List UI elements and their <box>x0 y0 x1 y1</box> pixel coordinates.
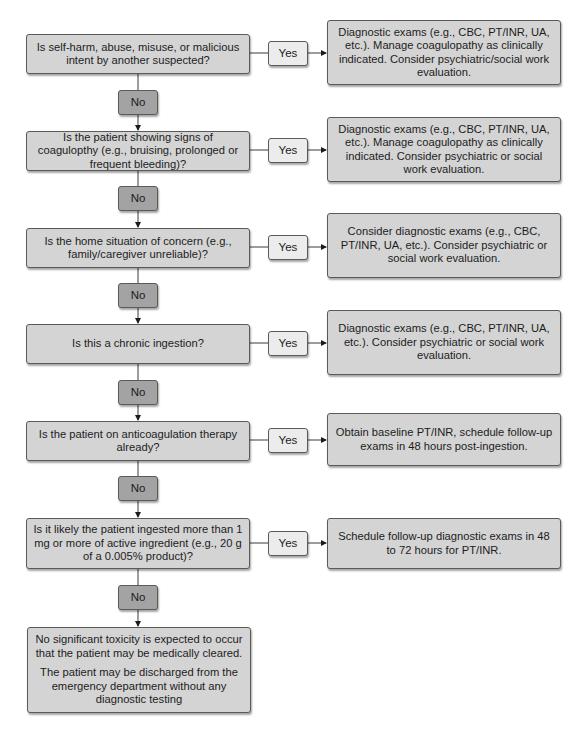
no-label-4: No <box>118 380 158 405</box>
yes-label-3: Yes <box>268 235 308 260</box>
final-outcome-line2: The patient may be discharged from the e… <box>34 666 244 707</box>
action-coagulopathy: Diagnostic exams (e.g., CBC, PT/INR, UA,… <box>327 117 561 182</box>
no-label-3: No <box>118 283 158 308</box>
question-coagulopathy: Is the patient showing signs of coagulop… <box>26 131 250 171</box>
no-label-6: No <box>118 585 158 610</box>
action-anticoagulation: Obtain baseline PT/INR, schedule follow-… <box>327 413 561 466</box>
action-chronic-ingestion: Diagnostic exams (e.g., CBC, PT/INR, UA,… <box>327 310 561 375</box>
action-ingested-amount: Schedule follow-up diagnostic exams in 4… <box>327 518 561 569</box>
question-home-situation: Is the home situation of concern (e.g., … <box>26 228 250 268</box>
action-home-situation: Consider diagnostic exams (e.g., CBC, PT… <box>327 213 561 278</box>
question-self-harm: Is self-harm, abuse, misuse, or maliciou… <box>26 34 250 74</box>
final-outcome-box: No significant toxicity is expected to o… <box>27 627 251 713</box>
action-self-harm: Diagnostic exams (e.g., CBC, PT/INR, UA,… <box>327 20 561 85</box>
final-outcome-line1: No significant toxicity is expected to o… <box>34 633 244 660</box>
no-label-5: No <box>118 476 158 501</box>
question-ingested-amount: Is it likely the patient ingested more t… <box>26 518 250 569</box>
yes-label-1: Yes <box>268 41 308 66</box>
yes-label-2: Yes <box>268 138 308 163</box>
question-anticoagulation: Is the patient on anticoagulation therap… <box>26 421 250 461</box>
yes-label-4: Yes <box>268 331 308 356</box>
question-chronic-ingestion: Is this a chronic ingestion? <box>26 324 250 364</box>
no-label-2: No <box>118 186 158 211</box>
yes-label-5: Yes <box>268 428 308 453</box>
yes-label-6: Yes <box>268 531 308 556</box>
no-label-1: No <box>118 90 158 115</box>
